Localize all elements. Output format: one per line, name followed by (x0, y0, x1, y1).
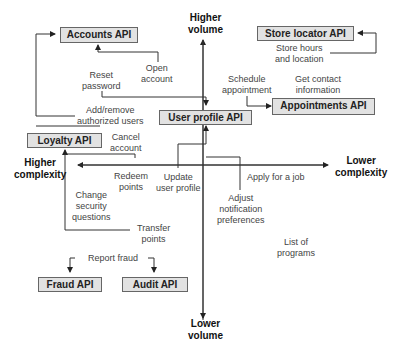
apply-job-label: Apply for a job (247, 172, 305, 183)
schedule-appointment-label: Scheduleappointment (222, 74, 272, 96)
get-contact-label: Get contactinformation (295, 74, 341, 96)
reset-password-label: Resetpassword (82, 70, 121, 92)
loyalty-api-box: Loyalty API (27, 133, 102, 148)
report-fraud-label: Report fraud (88, 253, 138, 264)
axis-bottom-label: Lowervolume (188, 318, 223, 342)
cancel-account-label: Cancelaccount (110, 132, 142, 154)
axis-right-label: Lowercomplexity (335, 155, 387, 179)
update-profile-label: Updateuser profile (156, 172, 201, 194)
store-locator-api-box: Store locator API (257, 26, 354, 41)
user-profile-api-box: User profile API (159, 110, 252, 125)
store-hours-label: Store hoursand location (275, 43, 324, 65)
change-security-label: Changesecurityquestions (72, 190, 111, 223)
accounts-api-box: Accounts API (60, 27, 138, 43)
adjust-notifications-label: Adjustnotificationpreferences (217, 193, 265, 226)
list-programs-label: List ofprograms (277, 237, 315, 259)
transfer-points-label: Transferpoints (137, 223, 170, 245)
axis-left-label: Highercomplexity (14, 157, 66, 181)
axis-top-label: Highervolume (188, 12, 223, 36)
audit-api-box: Audit API (122, 277, 188, 292)
add-remove-users-label: Add/removeauthorized users (77, 105, 144, 127)
fraud-api-box: Fraud API (38, 277, 102, 292)
open-account-label: Openaccount (141, 63, 173, 85)
appointments-api-box: Appointments API (272, 98, 375, 115)
redeem-points-label: Redeempoints (114, 171, 148, 193)
